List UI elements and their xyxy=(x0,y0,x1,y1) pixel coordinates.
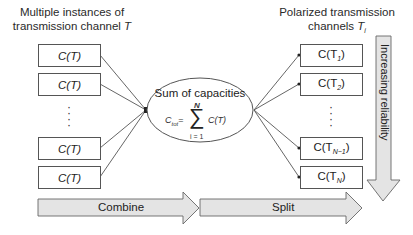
combine-label: Combine xyxy=(98,201,144,213)
left-heading-var: T xyxy=(124,20,131,32)
left-box-4: C(T) xyxy=(38,166,101,189)
box-sub: N−1 xyxy=(333,149,346,156)
right-box-4: C(TN) xyxy=(300,166,363,189)
left-box-1: C(T) xyxy=(38,44,101,67)
sum-symbol: ∑ xyxy=(189,104,205,130)
left-ellipsis: ···· xyxy=(64,104,74,130)
right-ellipsis: ···· xyxy=(326,104,336,130)
box-label: C(T) xyxy=(58,79,81,91)
box-label: C(T) xyxy=(58,172,81,184)
box-label: C(T xyxy=(318,48,337,60)
box-label: C(T) xyxy=(58,143,81,155)
left-heading-line1: Multiple instances of xyxy=(4,5,140,19)
box-label: C(T xyxy=(318,77,337,89)
formula-rhs-text: C(T) xyxy=(208,115,226,125)
right-heading-sub: i xyxy=(364,27,366,34)
right-heading-line1: Polarized transmission xyxy=(278,5,396,19)
box-label: C(T xyxy=(313,141,332,153)
box-close: ) xyxy=(346,141,350,153)
left-box-3: C(T) xyxy=(38,137,101,160)
box-label: C(T xyxy=(317,170,336,182)
left-heading: Multiple instances of transmission chann… xyxy=(4,5,140,33)
formula-eq: = xyxy=(178,115,183,125)
right-box-2: C(T2) xyxy=(300,73,363,96)
sum-lower: i = 1 xyxy=(190,133,203,140)
box-close: ) xyxy=(342,170,346,182)
right-heading-line2: channels Ti xyxy=(278,19,396,38)
sum-title: Sum of capacities xyxy=(147,87,253,99)
box-close: ) xyxy=(341,77,345,89)
box-label: C(T) xyxy=(58,50,81,62)
formula-rhs: C(T) xyxy=(208,115,226,125)
left-heading-line2: transmission channel T xyxy=(4,19,140,33)
right-box-1: C(T1) xyxy=(300,44,363,67)
formula-lhs: Ctot= xyxy=(165,115,183,127)
split-label: Split xyxy=(272,201,294,213)
left-box-2: C(T) xyxy=(38,73,101,96)
box-close: ) xyxy=(341,48,345,60)
right-heading: Polarized transmission channels Ti xyxy=(278,5,396,38)
right-heading-text: channels xyxy=(308,20,357,32)
reliability-label: Increasing reliability xyxy=(379,44,391,141)
right-box-3: C(TN−1) xyxy=(300,137,363,160)
left-heading-text: transmission channel xyxy=(13,20,124,32)
